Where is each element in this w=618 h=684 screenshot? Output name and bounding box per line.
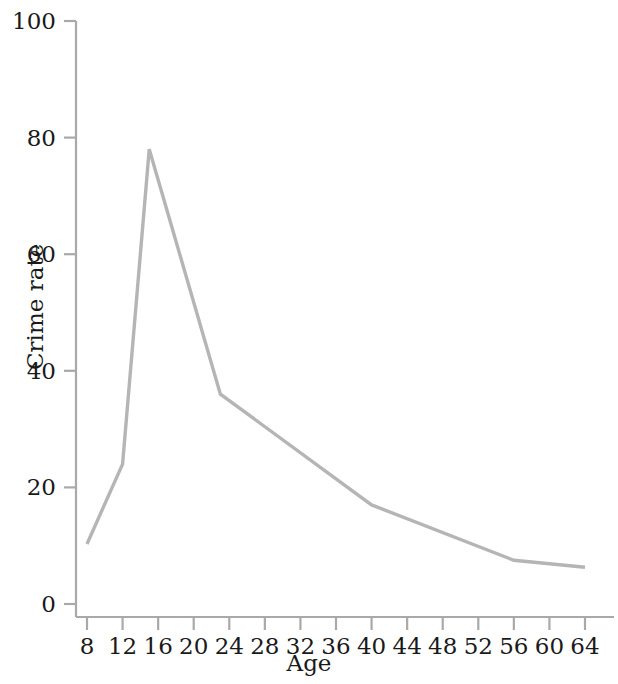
crime-rate-by-age-chart: 020406080100 812162024283236404448525660… — [0, 0, 618, 684]
plot-area — [0, 0, 618, 684]
y-tick-label: 100 — [0, 10, 56, 33]
y-axis-title: Crime rate — [22, 244, 48, 370]
x-axis-ticks — [87, 617, 585, 630]
y-tick-label: 0 — [0, 593, 56, 616]
y-tick-label: 20 — [0, 476, 56, 499]
x-axis-title: Age — [0, 650, 618, 676]
axis-lines — [76, 21, 614, 617]
y-axis-ticks — [64, 21, 76, 604]
y-tick-label: 80 — [0, 126, 56, 149]
data-line-series — [87, 149, 585, 567]
